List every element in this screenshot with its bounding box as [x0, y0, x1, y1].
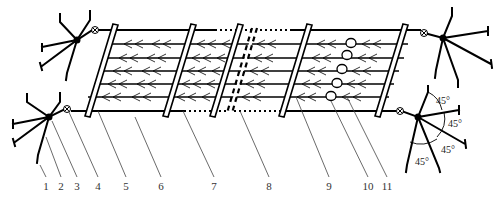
- angle-label-4: 45°: [415, 156, 429, 167]
- label-3: 3: [74, 180, 80, 192]
- label-4: 4: [95, 180, 101, 192]
- angle-label-2: 45°: [448, 118, 462, 129]
- angle-label-3: 45°: [441, 144, 455, 155]
- float-icon: [342, 51, 352, 60]
- shackle-icon-bottom-left: [64, 106, 71, 113]
- anchor-bottom-right: [404, 86, 466, 172]
- label-10: 10: [363, 180, 375, 192]
- float-icon: [326, 92, 336, 101]
- callout-labels: 1 2 3 4 5 6 7 8 9 10 11: [43, 180, 392, 192]
- label-1: 1: [43, 180, 49, 192]
- shackle-icon-top-left: [92, 27, 99, 34]
- angle-label-1: 45°: [436, 95, 450, 106]
- anchor-top-left: [40, 11, 91, 80]
- label-8: 8: [266, 180, 272, 192]
- label-5: 5: [123, 180, 129, 192]
- float-icon: [332, 79, 342, 88]
- label-11: 11: [382, 180, 393, 192]
- floats: [326, 39, 356, 101]
- label-6: 6: [158, 180, 164, 192]
- anchor-top-right: [428, 8, 492, 87]
- float-icon: [346, 39, 356, 48]
- net-diagram: 1 2 3 4 5 6 7 8 9 10 11 45° 45° 45° 45°: [0, 0, 499, 200]
- label-2: 2: [58, 180, 64, 192]
- shackle-icon-top-right: [421, 30, 428, 37]
- label-9: 9: [326, 180, 332, 192]
- shackle-icon-bottom-right: [397, 108, 404, 115]
- float-icon: [337, 65, 347, 74]
- label-7: 7: [211, 180, 217, 192]
